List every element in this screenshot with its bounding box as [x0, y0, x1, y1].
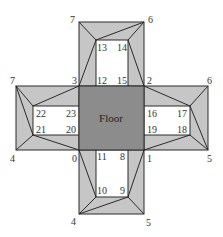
vertex-10: 10 [97, 185, 107, 196]
vertex-17: 17 [177, 108, 187, 119]
vertex-16: 16 [147, 108, 157, 119]
vertex-4-bottom: 4 [71, 216, 76, 227]
vertex-15: 15 [117, 75, 127, 86]
vertex-9: 9 [120, 185, 125, 196]
vertex-2: 2 [147, 75, 152, 86]
bottom-wall [79, 150, 144, 214]
vertex-4-left: 4 [10, 153, 15, 164]
floor-label: Floor [99, 112, 123, 124]
vertex-7-top: 7 [70, 14, 75, 25]
vertex-19: 19 [147, 124, 157, 135]
vertex-6-top: 6 [148, 14, 153, 25]
vertex-3: 3 [72, 75, 77, 86]
vertex-18: 18 [177, 124, 187, 135]
vertex-11: 11 [97, 151, 107, 162]
vertex-23: 23 [66, 108, 76, 119]
vertex-12: 12 [97, 75, 107, 86]
vertex-5-bottom: 5 [146, 217, 151, 228]
vertex-0: 0 [72, 153, 77, 164]
vertex-7-left: 7 [10, 75, 15, 86]
vertex-14: 14 [117, 42, 127, 53]
vertex-20: 20 [66, 124, 76, 135]
top-wall [79, 22, 144, 86]
vertex-6-right: 6 [207, 75, 212, 86]
vertex-5-right: 5 [207, 153, 212, 164]
vertex-8: 8 [120, 151, 125, 162]
vertex-22: 22 [36, 108, 46, 119]
vertex-21: 21 [36, 124, 46, 135]
vertex-1: 1 [147, 153, 152, 164]
room-unfolded-diagram: Floor 7 6 13 14 12 15 3 2 7 6 22 23 21 2… [0, 0, 223, 237]
vertex-13: 13 [97, 42, 107, 53]
